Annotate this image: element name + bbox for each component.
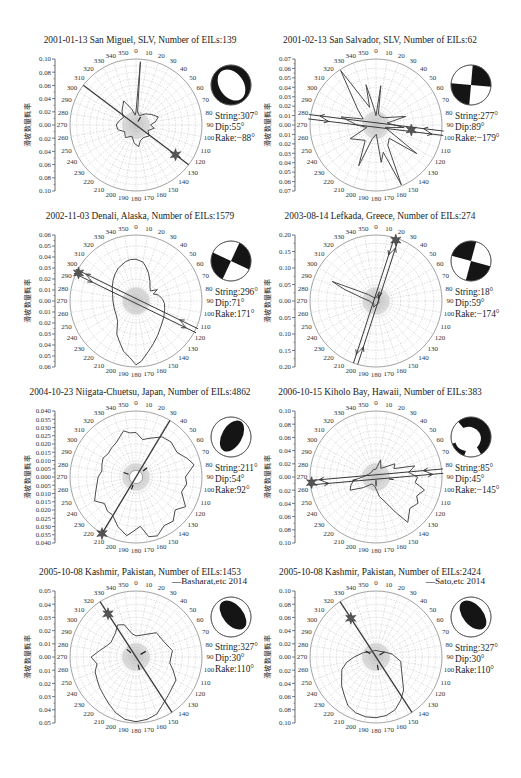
y-tick-label: 0.04 xyxy=(279,84,291,91)
angle-label: 40 xyxy=(420,241,428,249)
angle-label: 0 xyxy=(374,223,378,231)
angle-label: 190 xyxy=(118,726,129,734)
y-tick-label: 0.04 xyxy=(39,341,51,348)
angle-label: 100 xyxy=(204,134,215,142)
angle-label: 280 xyxy=(58,285,69,293)
angle-label: 300 xyxy=(307,436,318,444)
angle-label: 70 xyxy=(202,448,210,456)
angle-label: 280 xyxy=(58,461,69,469)
y-tick-label: 0.06 xyxy=(279,693,291,700)
angle-label: 90 xyxy=(447,121,455,129)
angle-label: 120 xyxy=(195,334,206,342)
angle-label: 50 xyxy=(189,606,197,614)
angle-label: 290 xyxy=(61,96,72,104)
angle-label: 10 xyxy=(145,49,153,57)
angle-label: 310 xyxy=(314,606,325,614)
y-tick-label: 0.04 xyxy=(279,447,291,454)
angle-label: 110 xyxy=(200,147,211,155)
slip-arrow-icon xyxy=(320,114,325,115)
slip-arrow-icon xyxy=(396,248,397,253)
y-tick-label: 0.08 xyxy=(279,706,291,713)
y-tick-label: 0.04 xyxy=(279,159,291,166)
angle-label: 330 xyxy=(334,409,345,417)
angle-label: 20 xyxy=(398,228,406,236)
y-tick-label: 0.08 xyxy=(39,69,51,76)
y-tick-label: 0.040 xyxy=(36,407,52,414)
y-tick-label: 0.10 xyxy=(279,587,291,594)
angle-label: 240 xyxy=(67,510,78,518)
angle-label: 20 xyxy=(158,404,166,412)
angle-label: 240 xyxy=(307,690,318,698)
angle-label: 350 xyxy=(118,225,129,233)
angle-label: 70 xyxy=(442,96,450,104)
angle-label: 50 xyxy=(429,426,437,434)
angle-label: 250 xyxy=(301,499,312,507)
angle-label: 30 xyxy=(170,57,178,65)
angle-label: 60 xyxy=(437,616,445,624)
y-tick-label: 0.04 xyxy=(39,601,51,608)
y-tick-label: 0.02 xyxy=(39,135,51,142)
angle-label: 270 xyxy=(57,297,68,305)
angle-label: 340 xyxy=(105,52,116,60)
y-tick-label: 0.030 xyxy=(36,424,52,431)
focal-mechanism-beachball-icon xyxy=(451,417,491,457)
angle-label: 260 xyxy=(58,134,69,142)
y-tick-label: 0.00 xyxy=(279,473,291,480)
angle-label: 220 xyxy=(323,710,334,718)
angle-label: 10 xyxy=(145,225,153,233)
angle-label: 300 xyxy=(307,84,318,92)
angle-label: 340 xyxy=(345,228,356,236)
y-tick-label: 0.025 xyxy=(36,432,52,439)
y-tick-label: 0.05 xyxy=(39,587,51,594)
panel-lefkada: 2003-08-14 Lefkada, Greece, Number of EI… xyxy=(240,176,520,376)
polar-rose-plot: 0102030405060708090100110120130140150160… xyxy=(240,532,500,732)
y-tick-label: 0.08 xyxy=(279,421,291,428)
angle-label: 340 xyxy=(345,404,356,412)
angle-label: 110 xyxy=(200,323,211,331)
slip-mark xyxy=(389,479,394,480)
angle-label: 320 xyxy=(323,417,334,425)
slip-arrow-icon xyxy=(324,121,329,122)
strike-value: String:327° xyxy=(455,643,498,654)
angle-label: 340 xyxy=(105,584,116,592)
angle-label: 310 xyxy=(314,250,325,258)
angle-label: 350 xyxy=(118,49,129,57)
angle-label: 310 xyxy=(74,250,85,258)
angle-label: 250 xyxy=(61,679,72,687)
angle-label: 280 xyxy=(298,461,309,469)
angle-label: 80 xyxy=(445,461,453,469)
angle-label: 350 xyxy=(358,581,369,589)
angle-label: 50 xyxy=(429,74,437,82)
panel-san-miguel: 2001-01-13 San Miguel, SLV, Number of EI… xyxy=(0,0,280,200)
angle-label: 330 xyxy=(94,589,105,597)
y-tick-label: 0.04 xyxy=(279,680,291,687)
y-tick-label: 0.010 xyxy=(36,457,52,464)
angle-label: 280 xyxy=(298,641,309,649)
epicenter-star-icon xyxy=(103,608,113,620)
y-tick-label: 0.020 xyxy=(36,506,52,513)
angle-label: 30 xyxy=(410,57,418,65)
slip-arrow-icon xyxy=(427,134,432,135)
y-tick-label: 0.04 xyxy=(279,500,291,507)
polar-rose-plot: 0102030405060708090100110120130140150160… xyxy=(0,352,260,552)
angle-label: 50 xyxy=(429,250,437,258)
angle-label: 340 xyxy=(105,404,116,412)
angle-label: 230 xyxy=(314,521,325,529)
y-tick-label: 0.06 xyxy=(279,65,291,72)
slip-arrow-icon xyxy=(388,250,389,255)
angle-label: 140 xyxy=(178,710,189,718)
angle-label: 40 xyxy=(180,65,188,73)
angle-label: 90 xyxy=(447,653,455,661)
angle-label: 310 xyxy=(74,74,85,82)
y-tick-label: 0.010 xyxy=(36,490,52,497)
angle-label: 90 xyxy=(207,121,215,129)
y-tick-label: 0.01 xyxy=(39,640,51,647)
focal-mechanism-beachball-icon xyxy=(451,241,491,281)
angle-label: 250 xyxy=(301,323,312,331)
angle-label: 30 xyxy=(170,409,178,417)
angle-label: 290 xyxy=(301,448,312,456)
angle-label: 200 xyxy=(105,723,116,731)
y-tick-label: 0.01 xyxy=(39,308,51,315)
y-tick-label: 0.03 xyxy=(279,93,291,100)
angle-label: 230 xyxy=(74,701,85,709)
